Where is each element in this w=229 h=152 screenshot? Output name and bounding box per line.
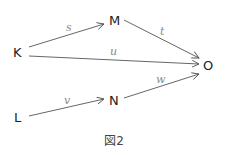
graph-diagram: s t u v w K M O N L 図2 [0,0,229,152]
figure-caption: 図2 [104,134,124,148]
edge-t: t [124,20,199,58]
node-n: N [109,93,119,108]
edge-label-w: w [156,73,166,86]
edge-label-t: t [160,25,165,38]
edge-u: u [29,45,199,64]
edge-label-u: u [110,45,117,58]
edge-v: v [29,94,104,116]
node-k: K [13,45,22,60]
node-o: O [203,58,213,73]
node-m: M [109,13,120,28]
edge-label-v: v [64,94,71,107]
node-l: L [14,110,22,125]
edge-s: s [29,21,104,47]
edge-w: w [124,73,199,98]
edge-label-s: s [66,21,72,34]
